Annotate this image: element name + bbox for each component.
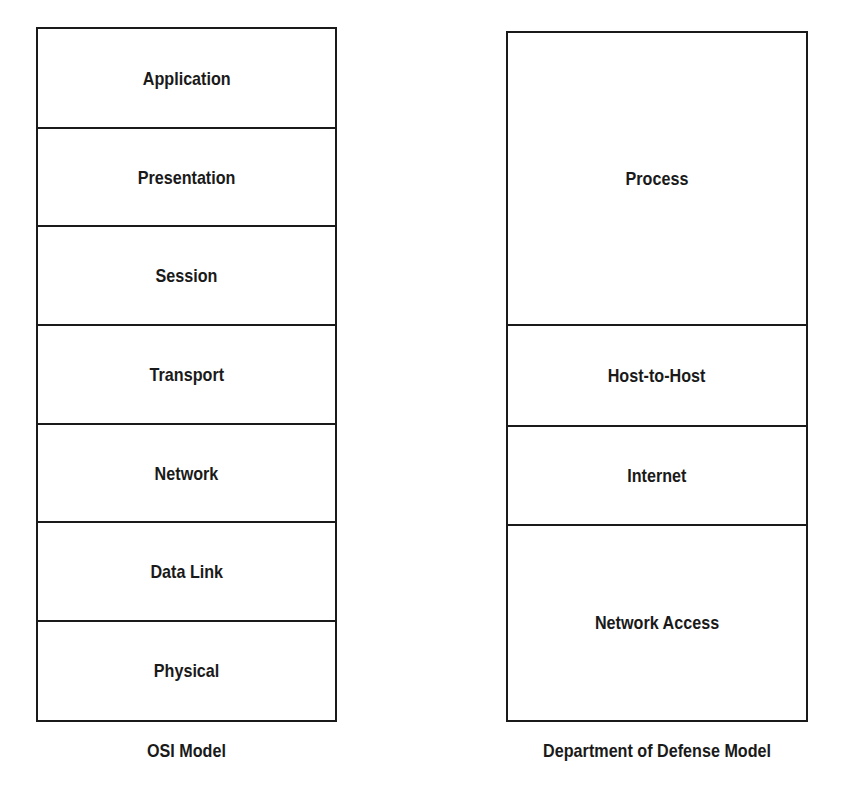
- osi-layer-session: Session: [38, 225, 335, 325]
- layer-label: Physical: [154, 660, 220, 682]
- osi-layer-application: Application: [38, 29, 335, 128]
- osi-layer-presentation: Presentation: [38, 127, 335, 226]
- osi-model-caption: OSI Model: [36, 740, 337, 762]
- osi-layer-transport: Transport: [38, 324, 335, 424]
- layer-label: Internet: [627, 465, 686, 487]
- osi-layer-data-link: Data Link: [38, 521, 335, 621]
- dod-layer-internet: Internet: [508, 425, 806, 525]
- dod-layer-host-to-host: Host-to-Host: [508, 324, 806, 426]
- osi-model-stack: Application Presentation Session Transpo…: [36, 27, 337, 722]
- osi-layer-physical: Physical: [38, 620, 335, 720]
- dod-layer-process: Process: [508, 33, 806, 325]
- dod-model-stack: Process Host-to-Host Internet Network Ac…: [506, 31, 808, 722]
- layer-label: Network: [155, 463, 219, 485]
- layer-label: Process: [626, 168, 689, 190]
- layer-label: Application: [143, 68, 231, 90]
- dod-layer-network-access: Network Access: [508, 524, 806, 720]
- layer-label: Transport: [149, 364, 223, 386]
- layer-label: Session: [156, 265, 218, 287]
- dod-model-caption: Department of Defense Model: [486, 740, 828, 762]
- layer-label: Network Access: [595, 612, 719, 634]
- osi-layer-network: Network: [38, 423, 335, 522]
- layer-label: Data Link: [150, 561, 223, 583]
- layer-label: Host-to-Host: [608, 365, 706, 387]
- layer-label: Presentation: [138, 167, 236, 189]
